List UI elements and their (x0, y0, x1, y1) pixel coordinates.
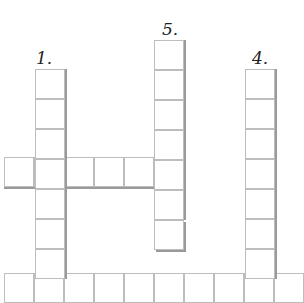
clue-5-cell-4[interactable] (154, 130, 184, 160)
bottom-across-cell-3[interactable] (64, 273, 94, 303)
middle-across-cell-4[interactable] (94, 157, 124, 187)
bottom-across-cell-4[interactable] (94, 273, 124, 303)
clue-5-cell-7[interactable] (154, 220, 184, 250)
middle-across-cell-5[interactable] (124, 157, 154, 187)
middle-across-cell-1[interactable] (4, 157, 34, 187)
clue-4-cell-6[interactable] (245, 219, 275, 249)
clue-number-4: 4. (252, 50, 268, 67)
bottom-across-cell-1[interactable] (4, 273, 34, 303)
clue-1-cell-2[interactable] (35, 99, 65, 129)
clue-number-1: 1. (36, 50, 52, 67)
clue-number-5: 5. (162, 21, 178, 38)
bottom-across-cell-8[interactable] (214, 273, 244, 303)
clue-1-cell-5[interactable] (35, 189, 65, 219)
clue-4-cell-7[interactable] (245, 249, 275, 279)
clue-1-cell-7[interactable] (35, 249, 65, 279)
bottom-across-cell-10[interactable] (274, 273, 304, 303)
clue-5-cell-3[interactable] (154, 100, 184, 130)
clue-5-cell-2[interactable] (154, 70, 184, 100)
clue-4-cell-2[interactable] (245, 99, 275, 129)
clue-1-cell-3[interactable] (35, 129, 65, 159)
clue-5-cell-6[interactable] (154, 190, 184, 220)
clue-1-cell-4[interactable] (35, 159, 65, 189)
clue-4-cell-3[interactable] (245, 129, 275, 159)
bottom-across-cell-7[interactable] (184, 273, 214, 303)
clue-1-cell-6[interactable] (35, 219, 65, 249)
clue-4-cell-5[interactable] (245, 189, 275, 219)
bottom-across-cell-6[interactable] (154, 273, 184, 303)
middle-across-cell-3[interactable] (64, 157, 94, 187)
clue-4-cell-4[interactable] (245, 159, 275, 189)
clue-5-cell-1[interactable] (154, 40, 184, 70)
bottom-across-cell-5[interactable] (124, 273, 154, 303)
clue-1-cell-1[interactable] (35, 69, 65, 99)
clue-5-cell-5[interactable] (154, 160, 184, 190)
clue-4-cell-1[interactable] (245, 69, 275, 99)
